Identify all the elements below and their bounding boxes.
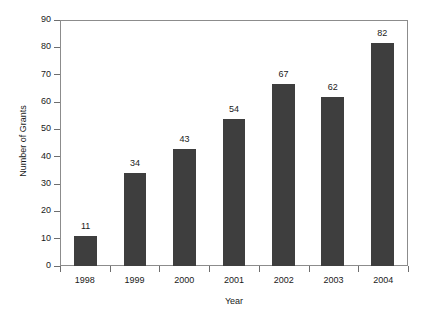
y-axis-tick-label: 30 <box>27 179 51 188</box>
bar: 43 <box>173 149 196 266</box>
bar-slot: 62 <box>308 21 357 266</box>
y-axis-tick-label: 80 <box>27 42 51 51</box>
y-axis-tick-label: 20 <box>27 206 51 215</box>
bar: 34 <box>124 173 147 266</box>
x-axis-tick <box>159 266 160 272</box>
bar: 62 <box>321 97 344 266</box>
x-axis-tick <box>358 266 359 272</box>
bar-slot: 11 <box>61 21 110 266</box>
y-axis-tick-label: 70 <box>27 70 51 79</box>
y-axis-tick-label: 10 <box>27 234 51 243</box>
y-axis-title: Number of Grants <box>18 71 28 211</box>
x-axis-tick <box>259 266 260 272</box>
x-axis-tick <box>110 266 111 272</box>
bar-value-label: 34 <box>130 159 140 168</box>
y-axis-tick-label: 90 <box>27 15 51 24</box>
x-axis-title: Year <box>60 296 408 306</box>
y-axis-tick-label: 50 <box>27 124 51 133</box>
bar-slot: 82 <box>358 21 407 266</box>
bar-slot: 43 <box>160 21 209 266</box>
bar-value-label: 67 <box>278 70 288 79</box>
y-axis-tick-label: 60 <box>27 97 51 106</box>
bar-slot: 34 <box>110 21 159 266</box>
bar-value-label: 54 <box>229 105 239 114</box>
cropped-edge-artifact <box>0 314 425 319</box>
bar-value-label: 11 <box>81 222 90 231</box>
bar-value-label: 62 <box>328 83 338 92</box>
x-axis-tick <box>209 266 210 272</box>
bars-container: 11344354676282 <box>61 21 407 266</box>
x-axis-tick <box>60 266 61 272</box>
bar: 11 <box>74 236 97 266</box>
bar: 54 <box>223 119 246 266</box>
x-axis-tick <box>408 266 409 272</box>
bar-chart: 0102030405060708090 11344354676282 19981… <box>0 0 425 319</box>
bar-value-label: 82 <box>377 29 387 38</box>
bar-slot: 67 <box>259 21 308 266</box>
bar: 67 <box>272 84 295 266</box>
bar-value-label: 43 <box>180 135 190 144</box>
bar-slot: 54 <box>209 21 258 266</box>
bar: 82 <box>371 43 394 266</box>
x-axis-tick-label: 2004 <box>353 276 413 285</box>
x-axis-tick <box>309 266 310 272</box>
y-axis-tick-label: 0 <box>27 261 51 270</box>
y-axis-tick-label: 40 <box>27 152 51 161</box>
